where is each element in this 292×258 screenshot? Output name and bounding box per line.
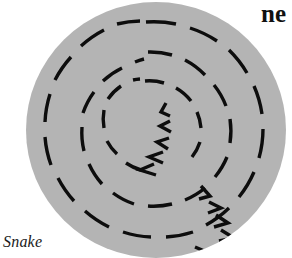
cropped-heading-fragment: ne <box>261 0 286 29</box>
snake-stimulus-figure <box>0 0 292 258</box>
circular-aperture <box>26 2 286 258</box>
figure-label-snake: Snake <box>3 232 42 252</box>
stimulus-canvas <box>0 0 292 258</box>
